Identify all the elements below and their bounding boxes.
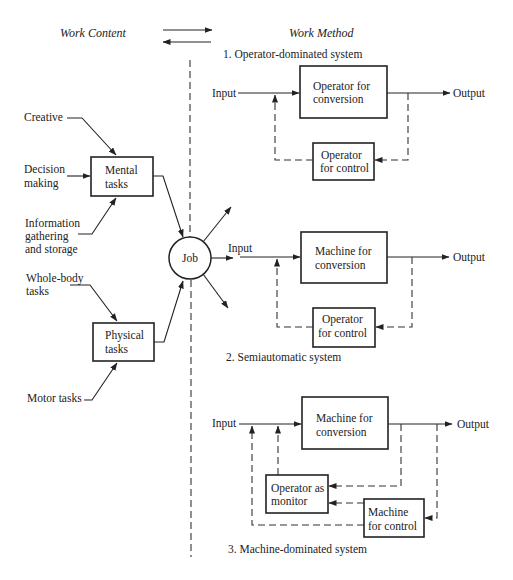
system-1-conversion-box (300, 66, 387, 118)
system-2-title: 2. Semiautomatic system (226, 351, 341, 364)
label-information-line3: and storage (25, 243, 78, 256)
system-1-control-line2: for control (320, 162, 369, 174)
system-1-input-label: Input (212, 87, 237, 100)
system-3-monitor-line1: Operator as (271, 482, 325, 495)
system-1-conversion-line2: conversion (313, 93, 364, 105)
job-design-diagram: Work Content Work Method Creative Decisi… (0, 0, 513, 580)
mental-tasks-line2: tasks (105, 178, 129, 190)
physical-tasks-line2: tasks (105, 343, 129, 355)
system-3-monitor-box (266, 475, 328, 513)
system-3-conversion-line1: Machine for (316, 412, 373, 424)
system-1-output-label: Output (453, 87, 486, 100)
system-2-conversion-line1: Machine for (315, 245, 372, 257)
label-information-line1: Information (25, 217, 80, 229)
work-content-heading: Work Content (60, 26, 127, 40)
system-3-control-line2: for control (368, 520, 417, 532)
label-decision-line1: Decision (24, 163, 65, 175)
system-2-output-label: Output (453, 251, 486, 264)
system-3-conversion-line2: conversion (316, 426, 367, 438)
label-whole-body-line2: tasks (26, 285, 50, 297)
system-3-input-label: Input (212, 417, 237, 430)
system-2-input-label: Input (228, 242, 253, 255)
label-decision-line2: making (24, 177, 59, 190)
label-whole-body-line1: Whole-body (26, 272, 84, 285)
system-2-control-line2: for control (318, 327, 367, 339)
system-3-output-label: Output (457, 418, 490, 431)
system-3-control-line1: Machine (368, 506, 408, 518)
job-node: Job (169, 237, 211, 279)
work-method-heading: Work Method (289, 26, 355, 40)
mental-tasks-box: Mental tasks (91, 157, 153, 196)
label-motor-tasks: Motor tasks (27, 392, 82, 404)
system-2-conversion-line2: conversion (315, 259, 366, 271)
label-creative: Creative (24, 111, 63, 123)
system-2-conversion-box (301, 232, 387, 283)
physical-tasks-line1: Physical (105, 329, 144, 342)
mental-tasks-line1: Mental (105, 164, 138, 176)
system-3-monitor-line2: monitor (271, 495, 308, 507)
label-information-line2: gathering (25, 230, 69, 243)
physical-tasks-box: Physical tasks (93, 323, 154, 361)
background (0, 0, 513, 580)
system-3-title: 3. Machine-dominated system (228, 543, 367, 556)
job-label: Job (182, 252, 198, 264)
system-1-title: 1. Operator-dominated system (223, 48, 362, 61)
system-1-control-line1: Operator (321, 149, 362, 162)
system-2-control-line1: Operator (322, 313, 363, 326)
system-1-conversion-line1: Operator for (313, 80, 370, 93)
mental-tasks-rect (91, 157, 153, 196)
